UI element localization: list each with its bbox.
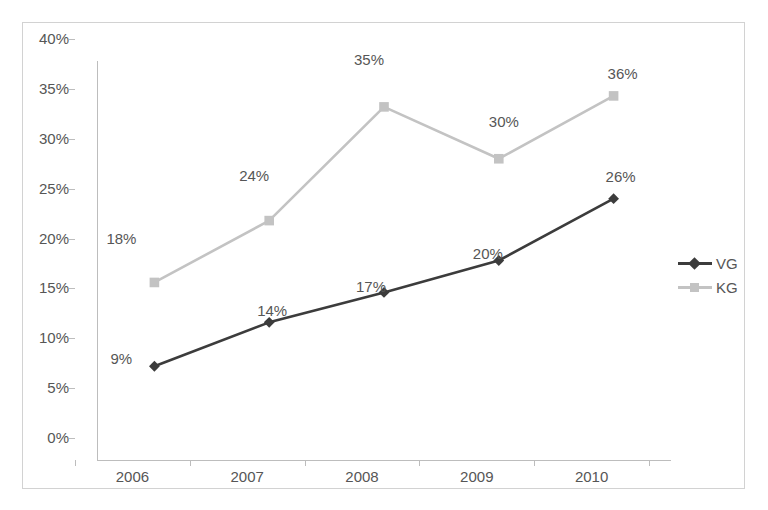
legend-swatch-vg [678, 256, 712, 270]
y-axis-tick-label-text: 5% [23, 380, 69, 395]
legend-diamond-marker-icon [688, 257, 701, 270]
y-axis-tick-mark [69, 239, 75, 240]
y-axis-tick-label-text: 0% [23, 430, 69, 445]
data-point-square [494, 154, 504, 164]
x-axis-tick-mark [190, 460, 191, 466]
data-label-vg-2010: 26% [606, 169, 636, 184]
data-label-kg-2008: 35% [354, 52, 384, 67]
data-label-kg-2010: 36% [608, 66, 638, 81]
y-axis-tick-mark [69, 338, 75, 339]
series-kg [150, 91, 619, 287]
chart-container: 0%5%10%15%20%25%30%35%40% 20062007200820… [0, 0, 768, 510]
x-axis-tick-label: 2010 [552, 469, 632, 485]
data-point-diamond [149, 361, 160, 372]
x-axis-tick-mark [305, 460, 306, 466]
series-line-kg [154, 96, 613, 283]
legend-label-text: KG [712, 280, 738, 295]
data-point-square [264, 216, 274, 226]
y-axis-tick-label-text: 15% [23, 280, 69, 295]
y-axis-tick-mark [69, 139, 75, 140]
data-label-vg-2009: 20% [473, 246, 503, 261]
x-axis-tick-mark [649, 460, 650, 466]
y-axis-tick-label-text: 40% [23, 31, 69, 46]
data-point-square [379, 102, 389, 112]
x-axis-tick-mark [419, 460, 420, 466]
x-axis-tick-label: 2008 [322, 469, 402, 485]
y-axis-tick-mark [69, 288, 75, 289]
data-point-square [150, 278, 160, 288]
y-axis-tick-label-text: 35% [23, 81, 69, 96]
series-lines [97, 61, 671, 460]
data-label-vg-2006: 9% [110, 351, 132, 366]
x-axis-tick-label: 2009 [437, 469, 517, 485]
y-axis-tick-label-text: 10% [23, 330, 69, 345]
x-axis-tick-label: 2007 [207, 469, 287, 485]
data-label-vg-2008: 17% [356, 279, 386, 294]
chart-frame: 0%5%10%15%20%25%30%35%40% 20062007200820… [22, 22, 745, 489]
legend-item-kg[interactable]: KG [678, 275, 762, 299]
plot-area [97, 61, 671, 460]
x-axis-tick-mark [75, 460, 76, 466]
legend-item-vg[interactable]: VG [678, 251, 762, 275]
y-axis-tick-label-text: 20% [23, 231, 69, 246]
legend-square-marker-icon [690, 283, 699, 292]
data-point-diamond [608, 193, 619, 204]
data-label-kg-2006: 18% [106, 231, 136, 246]
legend-swatch-kg [678, 280, 712, 294]
y-axis-tick-label-text: 25% [23, 181, 69, 196]
x-axis-tick-mark [534, 460, 535, 466]
data-label-kg-2007: 24% [239, 168, 269, 183]
y-axis-tick-label-text: 30% [23, 131, 69, 146]
data-label-kg-2009: 30% [489, 114, 519, 129]
x-axis-line [97, 460, 671, 461]
y-axis-tick-mark [69, 89, 75, 90]
data-label-vg-2007: 14% [257, 303, 287, 318]
y-axis-tick-mark [69, 39, 75, 40]
y-axis-tick-mark [69, 388, 75, 389]
data-point-square [609, 91, 619, 101]
legend-label-text: VG [712, 256, 738, 271]
x-axis-tick-label: 2006 [92, 469, 172, 485]
y-axis-tick-mark [69, 438, 75, 439]
y-axis-tick-mark [69, 189, 75, 190]
chart-legend: VGKG [678, 251, 762, 299]
